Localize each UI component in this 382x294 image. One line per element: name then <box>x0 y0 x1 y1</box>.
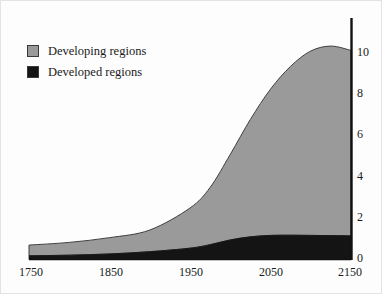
chart-figure: Developing regions Developed regions 10 … <box>0 0 382 294</box>
y-tick-0: 0 <box>357 251 363 266</box>
x-tick-1950: 1950 <box>179 265 203 280</box>
legend-swatch-developing-icon <box>27 45 39 57</box>
x-tick-1750: 1750 <box>19 265 43 280</box>
y-tick-4: 4 <box>357 169 363 184</box>
legend-item-developing: Developing regions <box>27 42 197 60</box>
y-tick-2: 2 <box>357 210 363 225</box>
y-tick-10: 10 <box>357 45 369 60</box>
x-tick-2050: 2050 <box>259 265 283 280</box>
y-tick-8: 8 <box>357 86 363 101</box>
y-tick-6: 6 <box>357 127 363 142</box>
x-tick-1850: 1850 <box>99 265 123 280</box>
legend-item-developed: Developed regions <box>27 63 197 81</box>
legend-swatch-developed-icon <box>27 66 39 78</box>
legend-label-developing: Developing regions <box>48 44 146 58</box>
chart-legend: Developing regions Developed regions <box>27 42 197 84</box>
x-tick-2150: 2150 <box>338 265 362 280</box>
legend-label-developed: Developed regions <box>48 65 142 79</box>
